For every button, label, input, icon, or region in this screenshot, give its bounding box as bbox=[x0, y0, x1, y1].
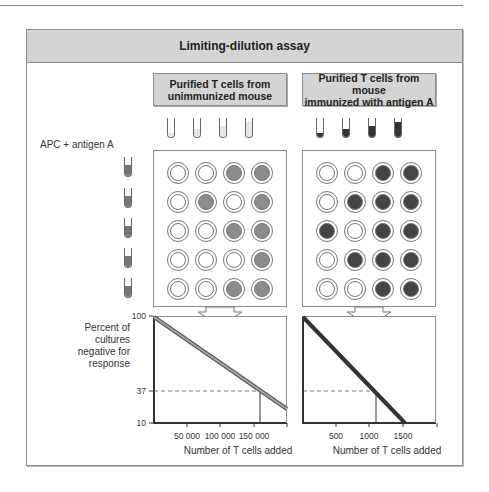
regression-line bbox=[303, 317, 405, 423]
y-tick-10: 10 bbox=[126, 418, 146, 428]
x-tick: 150 000 bbox=[229, 431, 279, 441]
x-axis-label-right: Number of T cells added bbox=[307, 445, 467, 456]
y-tick-100: 100 bbox=[126, 311, 146, 321]
x-axis-label-left: Number of T cells added bbox=[158, 445, 318, 456]
regression-line bbox=[154, 317, 287, 409]
x-tick: 1500 bbox=[378, 431, 428, 441]
y-tick-37: 37 bbox=[126, 386, 146, 396]
chart-lines bbox=[0, 0, 489, 492]
